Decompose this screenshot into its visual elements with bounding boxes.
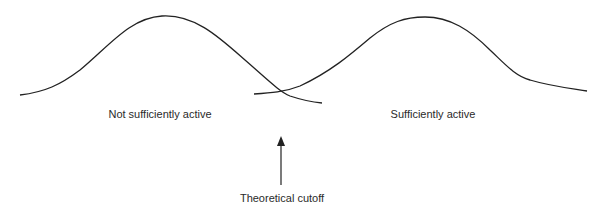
label-not-sufficiently-active: Not sufficiently active [108, 108, 211, 120]
label-theoretical-cutoff: Theoretical cutoff [240, 192, 324, 204]
label-sufficiently-active: Sufficiently active [391, 108, 476, 120]
cutoff-arrow [277, 136, 285, 185]
distribution-diagram [0, 0, 600, 212]
curve-not-sufficiently-active [20, 16, 322, 103]
curve-sufficiently-active [254, 17, 587, 94]
